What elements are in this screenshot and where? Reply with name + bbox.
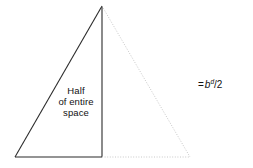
label-line-3: space	[45, 107, 107, 118]
half-of-entire-space-label: Half of entire space	[45, 85, 107, 118]
right-hypotenuse-dotted-line	[102, 6, 190, 157]
formula-divisor: /2	[214, 79, 222, 90]
formula-label: =bd/2	[198, 79, 222, 91]
left-hypotenuse-line	[15, 6, 102, 157]
label-line-1: Half	[45, 85, 107, 96]
label-line-2: of entire	[45, 96, 107, 107]
equals-sign: =	[198, 79, 204, 90]
